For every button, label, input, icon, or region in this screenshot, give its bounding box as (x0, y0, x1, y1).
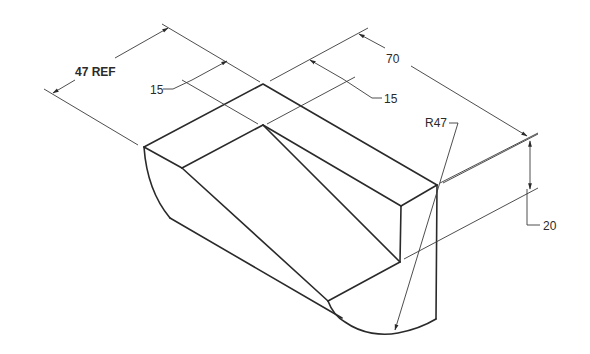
front-top-edge (144, 147, 182, 168)
dimension-r47: R47 (395, 116, 458, 330)
label-47-ref: 47 REF (75, 65, 116, 79)
dimension-70: 70 (270, 28, 538, 183)
step-bottom-edge (328, 262, 400, 301)
label-15-left: 15 (150, 83, 164, 97)
label-r47: R47 (425, 116, 447, 130)
bottom-long-edge (170, 218, 342, 318)
dimension-15-right: 15 (267, 60, 398, 124)
left-curve (144, 147, 170, 218)
front-curve (328, 301, 436, 334)
part-outline (144, 84, 437, 334)
step-vertical-edge (400, 206, 401, 262)
label-20: 20 (543, 219, 557, 233)
dimension-20: 20 (404, 134, 557, 259)
isometric-part-drawing: 47 REF 15 70 15 R47 20 (0, 0, 590, 354)
slope-lower-edge (182, 168, 328, 301)
label-15-right: 15 (384, 92, 398, 106)
step-front-edge (401, 185, 437, 206)
right-vertical-edge (436, 185, 437, 319)
inner-top-edge (182, 125, 263, 168)
label-70: 70 (386, 52, 400, 66)
